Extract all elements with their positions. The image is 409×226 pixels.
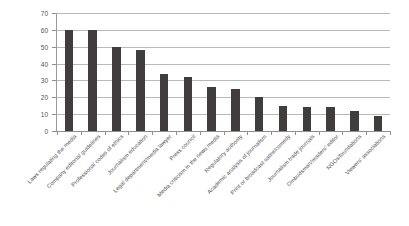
y-axis-tick-mark <box>52 114 56 115</box>
y-axis-tick-mark <box>52 97 56 98</box>
y-axis-tick-mark <box>52 47 56 48</box>
y-axis-tick-label: 60 <box>2 26 48 33</box>
category-labels: Laws regulating the mediaCompany editori… <box>0 131 409 226</box>
y-axis-tick-label: 40 <box>2 60 48 67</box>
y-axis-tick-mark <box>52 80 56 81</box>
bar <box>184 77 193 131</box>
bar <box>65 30 74 131</box>
bar <box>279 106 288 131</box>
bar <box>88 30 97 131</box>
y-axis-tick-label: 70 <box>2 10 48 17</box>
y-axis-tick-mark <box>52 64 56 65</box>
y-axis-tick-mark <box>52 13 56 14</box>
y-axis-tick-label: 30 <box>2 77 48 84</box>
bar-series <box>57 13 390 131</box>
bar <box>326 107 335 131</box>
y-axis-tick-label: 50 <box>2 43 48 50</box>
bar-chart: 010203040506070 Laws regulating the medi… <box>0 0 409 226</box>
y-axis-tick-label: 20 <box>2 94 48 101</box>
bar <box>350 111 359 131</box>
bar <box>303 107 312 131</box>
bar <box>255 97 264 131</box>
y-axis-tick-mark <box>52 30 56 31</box>
bar <box>160 74 169 131</box>
bar <box>374 116 383 131</box>
y-axis-tick-label: 10 <box>2 111 48 118</box>
bar <box>136 50 145 131</box>
bar <box>207 87 216 131</box>
bar <box>112 47 121 131</box>
bar <box>231 89 240 131</box>
